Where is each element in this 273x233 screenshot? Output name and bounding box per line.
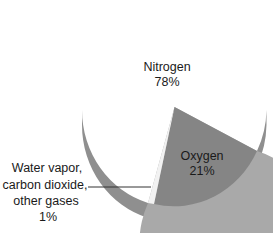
- nitrogen-label: Nitrogen: [143, 60, 190, 74]
- oxygen-value: 21%: [189, 164, 214, 178]
- pie-chart: Nitrogen 78% Oxygen 21% Water vapor, car…: [0, 0, 273, 233]
- nitrogen-value: 78%: [154, 75, 179, 89]
- nitrogen-side: [82, 110, 148, 218]
- other-gases-label-line3: other gases: [13, 194, 78, 208]
- other-gases-value: 1%: [39, 210, 57, 224]
- other-gases-label-line1: Water vapor,: [12, 161, 82, 175]
- oxygen-label: Oxygen: [180, 149, 223, 163]
- other-gases-label-line2: carbon dioxide,: [3, 178, 88, 192]
